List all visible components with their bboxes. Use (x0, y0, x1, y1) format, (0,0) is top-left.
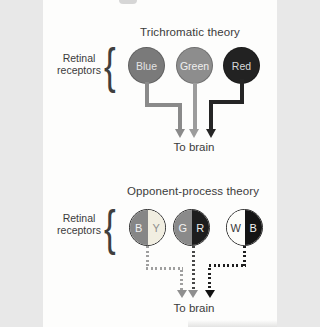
white-black-dotted-vertical (243, 246, 246, 266)
green-arrow-segment-vertical (193, 83, 197, 129)
receptor-circle-green-red: G R (173, 209, 210, 246)
blue-yellow-dotted-down (180, 270, 183, 291)
blue-arrow-segment-horizontal (145, 103, 183, 107)
blue-arrowhead-icon (175, 129, 185, 138)
receptor-circle-blue: Blue (128, 47, 165, 84)
trichromatic-title: Trichromatic theory (140, 26, 240, 38)
letter-w-white: W (231, 222, 241, 234)
retinal-label-line1: Retinal (53, 52, 105, 64)
retinal-label-line2: receptors (53, 224, 105, 236)
retinal-receptors-label-top: Retinal receptors (53, 52, 105, 76)
blue-yellow-dotted-horizontal (146, 267, 183, 270)
letter-b-blue: B (135, 222, 142, 234)
white-black-arrowhead-icon (205, 290, 215, 298)
green-arrowhead-icon (189, 129, 199, 138)
letter-y-yellow: Y (153, 222, 160, 234)
receptor-label-green: Green (180, 60, 209, 72)
retinal-label-line1: Retinal (53, 212, 105, 224)
red-arrowhead-icon (206, 129, 216, 138)
letter-g-green: G (178, 222, 187, 234)
blue-yellow-arrowhead-icon (177, 290, 187, 298)
receptor-label-red: Red (232, 60, 251, 72)
red-arrow-segment-horizontal (209, 100, 244, 104)
retinal-receptors-label-bottom: Retinal receptors (53, 212, 105, 236)
receptor-circle-blue-yellow: B Y (129, 209, 166, 246)
receptor-circle-white-black: W B (226, 209, 263, 246)
receptor-circle-green: Green (176, 47, 213, 84)
letter-b-black: B (250, 222, 257, 234)
scan-artifact (119, 0, 137, 4)
diagram-canvas: Trichromatic theory Retinal receptors { … (43, 0, 277, 327)
letter-r-red: R (196, 222, 204, 234)
opponent-title: Opponent-process theory (127, 185, 259, 197)
green-red-arrowhead-icon (188, 290, 198, 298)
receptor-label-blue: Blue (136, 60, 157, 72)
to-brain-label-top: To brain (174, 141, 215, 153)
white-black-dotted-horizontal (209, 264, 246, 267)
blue-yellow-dotted-vertical (146, 246, 149, 269)
blue-arrow-segment-down (178, 103, 182, 129)
retinal-label-line2: receptors (53, 64, 105, 76)
left-brace-bottom: { (104, 203, 116, 253)
left-brace-top: { (104, 41, 116, 91)
green-red-dotted-vertical (192, 246, 195, 291)
white-black-dotted-down (208, 268, 211, 291)
to-brain-label-bottom: To brain (174, 302, 215, 314)
scan-shadow-artifact (188, 320, 277, 327)
red-arrow-segment-down (209, 100, 213, 129)
